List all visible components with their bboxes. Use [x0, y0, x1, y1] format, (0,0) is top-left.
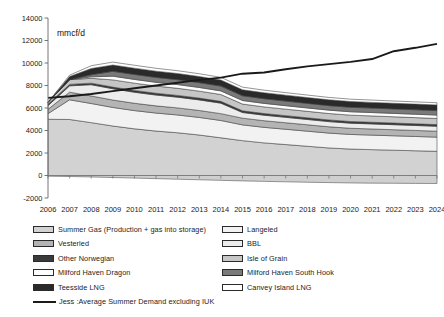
- legend-color-swatch: [222, 284, 243, 291]
- x-axis-tick-label: 2018: [299, 205, 316, 214]
- chart-legend: Summer Gas (Production + gas into storag…: [0, 222, 444, 317]
- legend-color-swatch: [33, 240, 54, 247]
- legend-item-label: Milford Haven South Hook: [247, 268, 334, 277]
- chart-page: 14000120001000080006000400020000-2000200…: [0, 0, 444, 317]
- x-axis-tick-label: 2022: [385, 205, 402, 214]
- x-axis-tick-label: 2024: [429, 205, 444, 214]
- legend-line-swatch: [33, 301, 56, 303]
- x-axis-tick-label: 2017: [277, 205, 294, 214]
- x-axis-tick-label: 2009: [104, 205, 121, 214]
- y-axis-tick-label: 10000: [22, 59, 43, 68]
- legend-item[interactable]: Other Norwegian: [33, 251, 233, 266]
- legend-item[interactable]: Milford Haven South Hook: [222, 266, 437, 281]
- x-axis-tick-label: 2023: [407, 205, 424, 214]
- legend-item-label: Milford Haven Dragon: [58, 268, 130, 277]
- legend-item[interactable]: Isle of Grain: [222, 251, 437, 266]
- y-axis-unit-label: mmcf/d: [57, 28, 85, 38]
- x-axis-tick-label: 2014: [213, 205, 230, 214]
- legend-item-label: Vesterled: [58, 239, 89, 248]
- legend-color-swatch: [33, 255, 54, 262]
- y-axis-tick-label: -2000: [23, 194, 42, 203]
- x-axis-tick-label: 2011: [148, 205, 164, 214]
- legend-color-swatch: [33, 226, 54, 233]
- legend-color-swatch: [222, 255, 243, 262]
- legend-color-swatch: [33, 269, 54, 276]
- area-chart: 14000120001000080006000400020000-2000200…: [0, 0, 444, 225]
- y-axis-tick-label: 0: [38, 171, 42, 180]
- legend-color-swatch: [222, 269, 243, 276]
- legend-column-left: Summer Gas (Production + gas into storag…: [33, 222, 233, 309]
- legend-color-swatch: [222, 226, 243, 233]
- legend-column-right: LangeledBBLIsle of GrainMilford Haven So…: [222, 222, 437, 295]
- x-axis-tick-label: 2010: [126, 205, 143, 214]
- legend-color-swatch: [33, 284, 54, 291]
- legend-item[interactable]: Jess :Average Summer Demand excluding IU…: [33, 295, 233, 310]
- y-axis-tick-label: 6000: [26, 104, 43, 113]
- legend-item[interactable]: Milford Haven Dragon: [33, 266, 233, 281]
- y-axis-tick-label: 8000: [26, 81, 43, 90]
- x-axis-tick-label: 2016: [256, 205, 273, 214]
- legend-item-label: Isle of Grain: [247, 254, 287, 263]
- legend-item-label: Summer Gas (Production + gas into storag…: [58, 225, 206, 234]
- y-axis-tick-label: 14000: [22, 14, 43, 23]
- legend-item-label: Langeled: [247, 225, 278, 234]
- x-axis-tick-label: 2012: [169, 205, 186, 214]
- x-axis-tick-label: 2007: [61, 205, 78, 214]
- legend-item-label: BBL: [247, 239, 261, 248]
- x-axis-tick-label: 2019: [321, 205, 338, 214]
- y-axis-tick-label: 2000: [26, 149, 43, 158]
- legend-item[interactable]: Vesterled: [33, 237, 233, 252]
- legend-color-swatch: [222, 240, 243, 247]
- legend-item[interactable]: BBL: [222, 237, 437, 252]
- y-axis-tick-label: 12000: [22, 36, 43, 45]
- legend-item[interactable]: Teesside LNG: [33, 280, 233, 295]
- legend-item-label: Other Norwegian: [58, 254, 114, 263]
- legend-item[interactable]: Summer Gas (Production + gas into storag…: [33, 222, 233, 237]
- x-axis-tick-label: 2020: [342, 205, 359, 214]
- x-axis-tick-label: 2021: [364, 205, 381, 214]
- legend-item-label: Canvey Island LNG: [247, 283, 312, 292]
- legend-item-label: Teesside LNG: [58, 283, 105, 292]
- x-axis-tick-label: 2008: [83, 205, 100, 214]
- legend-item-label: Jess :Average Summer Demand excluding IU…: [59, 297, 214, 306]
- legend-item[interactable]: Canvey Island LNG: [222, 280, 437, 295]
- x-axis-tick-label: 2015: [234, 205, 251, 214]
- x-axis-tick-label: 2006: [40, 205, 57, 214]
- chart-plot-area: 14000120001000080006000400020000-2000200…: [0, 0, 444, 225]
- legend-item[interactable]: Langeled: [222, 222, 437, 237]
- x-axis-tick-label: 2013: [191, 205, 208, 214]
- y-axis-tick-label: 4000: [26, 126, 43, 135]
